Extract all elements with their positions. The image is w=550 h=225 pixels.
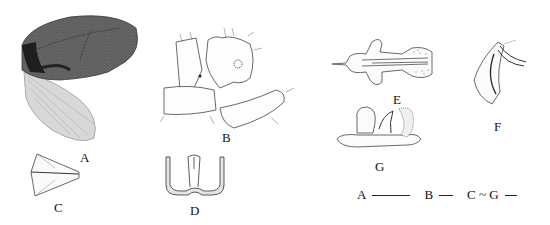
scale-label-b: B bbox=[424, 187, 433, 203]
panel-label-c: C bbox=[54, 201, 63, 214]
panel-label-b: B bbox=[222, 131, 231, 144]
scale-label-c-g: C ~ G bbox=[467, 187, 499, 203]
aedeagus-dorsal-illustration bbox=[332, 38, 437, 88]
aedeagus-lateral-illustration bbox=[337, 105, 447, 150]
sclerite-d-illustration bbox=[160, 155, 230, 200]
scale-label-a: A bbox=[357, 187, 366, 203]
panel-label-f: F bbox=[494, 120, 501, 133]
panel-label-g: G bbox=[375, 160, 384, 173]
paramere-illustration bbox=[470, 40, 530, 110]
sclerite-c-illustration bbox=[25, 152, 85, 197]
scale-bar-a bbox=[372, 195, 410, 196]
scale-bar-b bbox=[439, 195, 453, 196]
scale-bar-legend: A B C ~ G bbox=[357, 187, 523, 203]
wing-illustration bbox=[0, 0, 150, 150]
scale-bar-c-g bbox=[505, 195, 517, 196]
panel-label-d: D bbox=[190, 204, 199, 217]
